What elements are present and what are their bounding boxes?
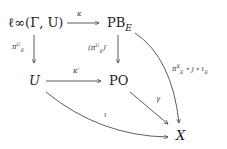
- node-u: U: [29, 74, 40, 87]
- arrow-gamma: [130, 92, 168, 124]
- label-composite: πXE ∘ ȷ ∘ ιE: [172, 66, 208, 73]
- node-x: X: [176, 129, 185, 142]
- label-kappa: κ: [77, 11, 82, 18]
- node-pb: PBE: [107, 16, 132, 29]
- node-linf: ℓ∞(Γ, U): [8, 16, 63, 29]
- arrow-composite: [135, 33, 179, 123]
- node-po: PO: [109, 74, 128, 87]
- label-iota: ι: [104, 112, 107, 119]
- label-kappa-prime: κ′: [73, 68, 79, 75]
- label-pi-u-prime: (πUE)′: [88, 45, 107, 52]
- arrow-iota: [46, 92, 168, 137]
- label-pi-u: πUE: [12, 44, 24, 51]
- label-gamma: γ: [156, 96, 160, 103]
